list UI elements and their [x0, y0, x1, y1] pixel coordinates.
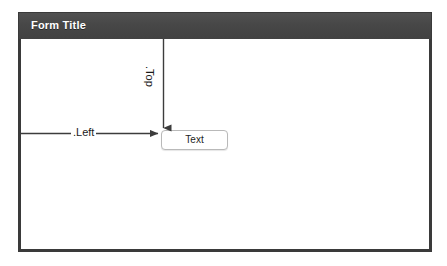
- top-annotation-label: .Top: [143, 64, 157, 89]
- left-annotation-label: .Left: [71, 126, 96, 138]
- form-title-label: Form Title: [31, 19, 86, 31]
- form-titlebar: Form Title: [18, 12, 432, 39]
- diagram-canvas: Form Title Text .Left .Top: [0, 0, 447, 266]
- text-control-label: Text: [162, 131, 227, 149]
- text-control[interactable]: Text: [161, 130, 228, 150]
